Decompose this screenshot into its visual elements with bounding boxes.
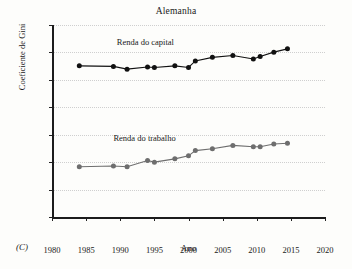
data-point (193, 148, 198, 153)
data-point (230, 53, 235, 58)
data-point (210, 55, 215, 60)
chart-title: Alemanha (0, 6, 352, 16)
data-point (125, 67, 130, 72)
data-point (193, 58, 198, 63)
data-point (251, 144, 256, 149)
y-axis-title: Coeficiente de Gini (17, 0, 27, 137)
data-point (271, 142, 276, 147)
data-point (285, 46, 290, 51)
data-point (172, 156, 177, 161)
data-point (285, 141, 290, 146)
data-point (251, 57, 256, 62)
series-line (79, 49, 287, 69)
plot-area: 0.30.40.50.60.70.80.91.0 198019851990199… (52, 25, 325, 217)
x-axis-line (52, 217, 326, 219)
data-point (186, 153, 191, 158)
data-point (210, 146, 215, 151)
data-point (77, 164, 82, 169)
data-point (230, 143, 235, 148)
data-point (186, 65, 191, 70)
series-label-capital: Renda do capital (117, 37, 174, 47)
series-label-trabalho: Renda do trabalho (113, 133, 175, 143)
data-point (172, 63, 177, 68)
data-point (258, 54, 263, 59)
data-point (271, 50, 276, 55)
data-point (77, 63, 82, 68)
data-point (111, 64, 116, 69)
data-point (152, 160, 157, 165)
panel-label: (C) (16, 242, 28, 252)
data-point (145, 158, 150, 163)
x-axis-title: Ano (52, 243, 325, 253)
data-point (258, 144, 263, 149)
series-line (79, 143, 287, 167)
data-point (125, 164, 130, 169)
series-layer (52, 25, 325, 217)
data-point (145, 64, 150, 69)
figure-panel-c: Alemanha Coeficiente de Gini 0.30.40.50.… (0, 0, 352, 269)
data-point (111, 163, 116, 168)
series-trabalho (77, 141, 290, 170)
data-point (152, 65, 157, 70)
series-capital (77, 46, 290, 71)
